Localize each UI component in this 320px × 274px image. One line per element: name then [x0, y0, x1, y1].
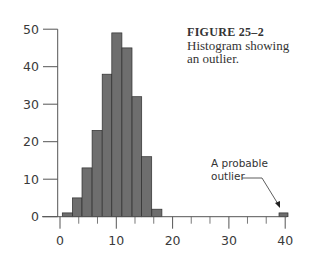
y-tick-label: 30	[23, 97, 39, 112]
annotation-line-2: outlier	[211, 170, 245, 182]
histogram-bar	[142, 157, 152, 217]
annotation-line-1: A probable	[211, 157, 268, 169]
histogram-bar	[112, 33, 122, 217]
y-tick-label: 50	[23, 22, 39, 37]
x-tick-label: 30	[221, 233, 237, 248]
histogram-bar	[122, 48, 132, 217]
x-tick-label: 0	[56, 233, 64, 248]
figure-caption: FIGURE 25–2 Histogram showing an outlier…	[187, 26, 289, 65]
outlier-annotation: A probable outlier	[211, 157, 280, 208]
histogram-bar	[279, 213, 288, 217]
y-tick-label: 0	[31, 209, 39, 224]
x-tick-label: 40	[277, 233, 293, 248]
arrowhead-icon	[275, 201, 280, 208]
histogram-bar	[72, 198, 82, 217]
histogram-bar	[92, 130, 102, 216]
y-tick-label: 10	[23, 172, 39, 187]
histogram-bar	[82, 168, 92, 217]
x-tick-label: 20	[165, 233, 181, 248]
y-tick-label: 20	[23, 134, 39, 149]
y-tick-label: 40	[23, 59, 39, 74]
histogram-bar	[62, 213, 72, 217]
x-tick-label: 10	[108, 233, 124, 248]
histogram-bar	[102, 74, 112, 217]
histogram-bar	[152, 209, 162, 217]
histogram-bar	[132, 97, 142, 217]
leader-line	[242, 178, 278, 204]
caption-line-2: an outlier.	[187, 52, 289, 65]
